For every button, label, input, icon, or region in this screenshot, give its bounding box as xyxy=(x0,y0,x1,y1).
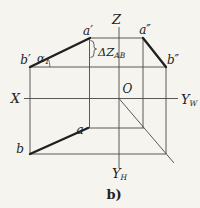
side-view-segment-ab xyxy=(143,38,166,67)
alpha-angle-label: α1 xyxy=(37,51,50,66)
point-label-b-front: b′ xyxy=(20,53,31,67)
delta-z-brace xyxy=(91,41,97,58)
yh-axis-label: YH xyxy=(112,166,128,183)
point-label-b-top: b xyxy=(16,142,24,156)
point-label-a-front: a′ xyxy=(83,24,93,38)
origin-label: O xyxy=(123,82,133,96)
x-axis-label: X xyxy=(10,91,21,106)
delta-z-label: ΔZAB xyxy=(97,45,126,61)
point-label-a-top: a xyxy=(76,123,83,137)
z-axis-label: Z xyxy=(111,12,122,27)
diagram-canvas: Z X YW YH O a′ a″ b′ b″ a b α1 ΔZAB b) xyxy=(0,0,200,208)
figure-caption: b) xyxy=(106,187,121,202)
projection-diagram: Z X YW YH O a′ a″ b′ b″ a b α1 ΔZAB b) xyxy=(0,0,200,208)
yw-axis-label: YW xyxy=(181,92,199,109)
point-label-a-side: a″ xyxy=(139,23,151,37)
point-label-b-side: b″ xyxy=(167,53,180,67)
